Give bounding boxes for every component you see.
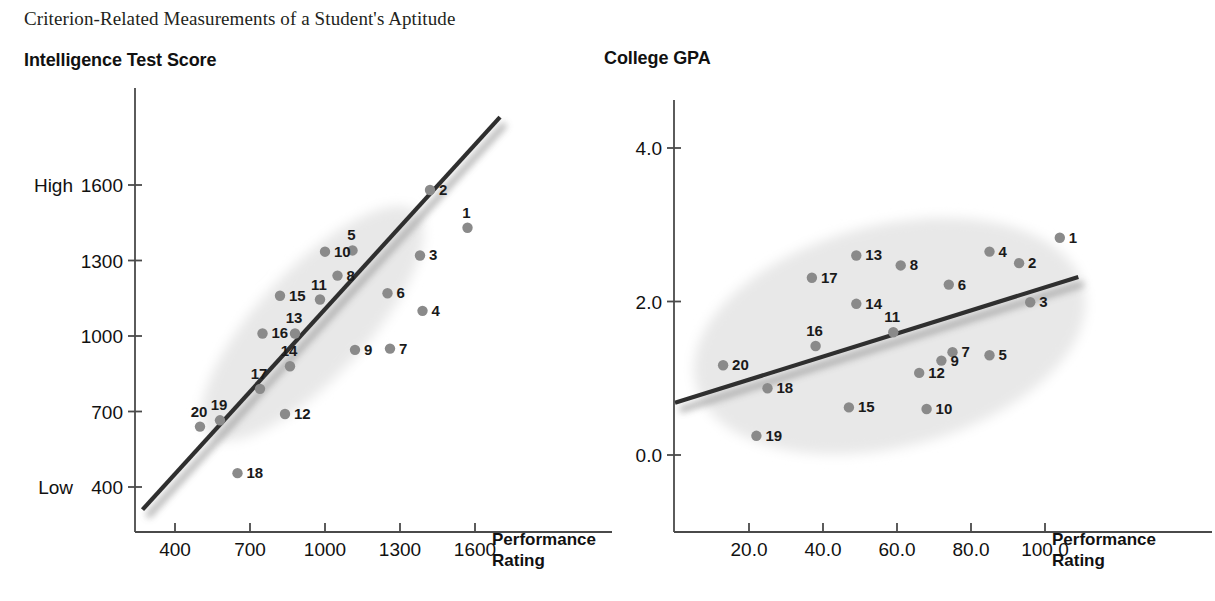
right-scatter-plot: 20.040.060.080.0100.00.02.04.0 123456789…: [600, 0, 1215, 601]
right-point-marker[interactable]: [851, 250, 861, 260]
left-point-marker[interactable]: [195, 421, 205, 431]
right-point-marker[interactable]: [984, 350, 994, 360]
left-x-tick-label: 400: [159, 539, 191, 560]
right-point-label: 1: [1069, 229, 1077, 246]
right-point-marker[interactable]: [807, 273, 817, 283]
left-point-label: 9: [364, 341, 372, 358]
right-point-marker[interactable]: [718, 360, 728, 370]
right-y-tick-label: 4.0: [636, 138, 662, 159]
right-point-marker[interactable]: [762, 383, 772, 393]
right-point-marker[interactable]: [914, 368, 924, 378]
right-point-marker[interactable]: [1025, 297, 1035, 307]
left-x-tick-label: 1000: [304, 539, 346, 560]
right-point-marker[interactable]: [851, 299, 861, 309]
left-point-label: 15: [289, 287, 306, 304]
right-x-tick-label: 40.0: [805, 539, 842, 560]
left-point-label: 5: [347, 226, 355, 243]
left-point-label: 16: [272, 324, 289, 341]
right-x-tick-label: 60.0: [879, 539, 916, 560]
left-point-label: 19: [211, 396, 228, 413]
left-point-marker[interactable]: [285, 361, 295, 371]
left-y-low-label: Low: [38, 477, 73, 498]
left-x-axis-title-line1: Performance: [492, 530, 596, 549]
right-x-axis-title-line2: Rating: [1052, 551, 1105, 570]
right-point-label: 18: [777, 379, 794, 396]
left-point-marker[interactable]: [385, 343, 395, 353]
figure-root: Criterion-Related Measurements of a Stud…: [0, 0, 1215, 601]
right-point-label: 9: [950, 352, 958, 369]
left-point-marker[interactable]: [275, 291, 285, 301]
left-x-axis-title-line2: Rating: [492, 551, 545, 570]
left-point-marker[interactable]: [417, 306, 427, 316]
left-point-label: 10: [334, 243, 351, 260]
left-y-high-label: High: [34, 175, 73, 196]
right-x-tick-label: 80.0: [953, 539, 990, 560]
right-panel: 20.040.060.080.0100.00.02.04.0 123456789…: [600, 0, 1215, 601]
right-point-marker[interactable]: [751, 431, 761, 441]
right-x-tick-label: 20.0: [731, 539, 768, 560]
left-y-tick-label: 400: [91, 477, 123, 498]
left-point-marker[interactable]: [425, 185, 435, 195]
right-point-label: 14: [865, 295, 882, 312]
right-point-marker[interactable]: [810, 341, 820, 351]
right-point-marker[interactable]: [1014, 258, 1024, 268]
left-x-tick-label: 1600: [454, 539, 496, 560]
left-point-marker[interactable]: [315, 294, 325, 304]
right-point-label: 6: [958, 276, 966, 293]
left-point-marker[interactable]: [320, 246, 330, 256]
right-point-label: 10: [936, 400, 953, 417]
right-point-label: 2: [1028, 254, 1036, 271]
left-point-label: 8: [347, 267, 355, 284]
right-point-label: 17: [821, 269, 838, 286]
left-point-marker[interactable]: [290, 328, 300, 338]
left-point-label: 3: [429, 246, 437, 263]
left-y-tick-label: 1000: [81, 326, 123, 347]
right-point-label: 19: [765, 427, 782, 444]
left-point-label: 18: [247, 464, 264, 481]
right-point-label: 5: [999, 346, 1007, 363]
left-point-label: 6: [397, 284, 405, 301]
left-point-marker[interactable]: [382, 288, 392, 298]
left-scatter-plot: 400700100013001600400Low700100013001600H…: [0, 0, 620, 601]
left-point-marker[interactable]: [280, 409, 290, 419]
right-point-marker[interactable]: [984, 246, 994, 256]
right-point-marker[interactable]: [888, 327, 898, 337]
left-point-label: 4: [432, 302, 441, 319]
right-point-marker[interactable]: [921, 404, 931, 414]
right-point-label: 3: [1039, 293, 1047, 310]
right-point-marker[interactable]: [844, 402, 854, 412]
left-point-marker[interactable]: [232, 468, 242, 478]
left-point-marker[interactable]: [332, 270, 342, 280]
left-point-marker[interactable]: [462, 223, 472, 233]
right-point-label: 11: [884, 308, 900, 325]
right-point-marker[interactable]: [896, 260, 906, 270]
left-point-label: 20: [191, 403, 208, 420]
left-point-marker[interactable]: [255, 384, 265, 394]
right-point-label: 7: [962, 343, 970, 360]
right-point-marker[interactable]: [944, 279, 954, 289]
right-point-label: 12: [928, 364, 945, 381]
right-y-tick-label: 0.0: [636, 445, 662, 466]
left-point-marker[interactable]: [350, 345, 360, 355]
left-point-label: 11: [311, 276, 327, 293]
left-y-tick-label: 700: [91, 402, 123, 423]
left-point-marker[interactable]: [215, 415, 225, 425]
left-trendline-stroke: [143, 117, 501, 510]
left-point-label: 14: [281, 342, 298, 359]
right-point-label: 13: [865, 246, 882, 263]
right-y-tick-label: 2.0: [636, 292, 662, 313]
left-point-label: 2: [439, 181, 447, 198]
right-point-label: 20: [732, 356, 749, 373]
right-point-marker[interactable]: [1055, 233, 1065, 243]
right-point-label: 15: [858, 398, 875, 415]
left-y-tick-label: 1300: [81, 251, 123, 272]
right-point-label: 8: [910, 256, 918, 273]
left-x-tick-label: 700: [234, 539, 266, 560]
left-point-label: 12: [294, 405, 311, 422]
left-point-marker[interactable]: [257, 328, 267, 338]
left-point-marker[interactable]: [415, 250, 425, 260]
left-y-tick-label: 1600: [81, 175, 123, 196]
left-point-label: 17: [251, 365, 268, 382]
left-point-label: 1: [462, 204, 470, 221]
right-point-label: 16: [806, 322, 823, 339]
